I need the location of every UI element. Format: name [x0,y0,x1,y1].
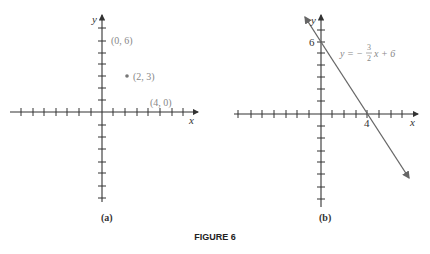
equation-numerator: 3 [367,43,371,52]
x-intercept-label: 4 [364,117,370,129]
equation-rhs: x + 6 [373,48,395,59]
y-axis-label: y [310,14,316,26]
point-2-3 [125,74,129,78]
panel-b: y x 6 4 y = − 3 2 x + 6 (b) [234,14,418,224]
equation-label: y = − 3 2 x + 6 [339,43,395,63]
equation-denominator: 2 [367,54,371,63]
equation-lhs: y = − [339,48,363,59]
figure-canvas: y x (0, 6) (2, 3) (4, 0) (a) [0,0,430,254]
y-axis-label: y [91,13,97,25]
panel-a: y x (0, 6) (2, 3) (4, 0) (a) [10,13,198,224]
point-label-2-3: (2, 3) [133,71,155,83]
y-intercept-label: 6 [309,36,315,48]
figure-caption: FIGURE 6 [194,232,236,242]
point-label-4-0: (4, 0) [150,97,172,109]
x-axis-label: x [409,116,415,128]
line-y-equals-neg-1.5x-plus-6-lower [330,56,409,178]
point-label-0-6: (0, 6) [111,35,133,47]
x-axis-label: x [188,114,194,126]
panel-label-b: (b) [319,212,331,224]
panel-label-a: (a) [101,212,113,224]
